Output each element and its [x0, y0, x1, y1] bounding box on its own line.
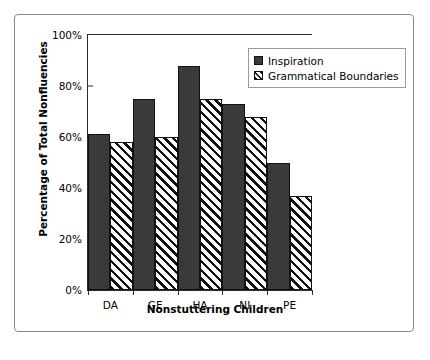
bar-ha-series-1: [178, 66, 200, 290]
x-axis-tick-mark: [267, 290, 268, 295]
bar-da-series-2: [110, 142, 132, 290]
legend-item: Grammatical Boundaries: [254, 68, 398, 83]
bar-ge-series-2: [155, 137, 177, 290]
bar-da-series-1: [88, 134, 110, 290]
x-axis-tick-mark: [133, 290, 134, 295]
y-axis-tick-label: 40%: [59, 182, 82, 194]
legend-swatch-icon: [254, 56, 263, 65]
chart-legend: InspirationGrammatical Boundaries: [248, 48, 406, 88]
bar-ha-series-2: [200, 99, 222, 290]
legend-item-label: Inspiration: [268, 55, 324, 67]
y-axis-tick-label: 20%: [59, 233, 82, 245]
legend-swatch-icon: [254, 71, 263, 80]
legend-item-label: Grammatical Boundaries: [268, 70, 398, 82]
y-axis-title: Percentage of Total Nonfluencies: [37, 19, 49, 259]
y-axis-tick-label: 100%: [52, 29, 82, 41]
x-axis-tick-mark: [312, 290, 313, 295]
x-axis-tick-mark: [222, 290, 223, 295]
bar-ni-series-2: [245, 117, 267, 290]
y-axis-tick-label: 0%: [65, 284, 82, 296]
y-axis-tick-mark: [88, 86, 93, 87]
y-axis-tick-label: 60%: [59, 131, 82, 143]
x-axis-title: Nonstuttering Children: [15, 303, 415, 315]
bar-pe-series-2: [290, 196, 312, 290]
x-axis-tick-mark: [88, 290, 89, 295]
x-axis-tick-mark: [178, 290, 179, 295]
legend-item: Inspiration: [254, 53, 398, 68]
y-axis-tick-label: 80%: [59, 80, 82, 92]
bar-ge-series-1: [133, 99, 155, 290]
bar-ni-series-1: [222, 104, 244, 290]
chart-figure-frame: Percentage of Total Nonfluencies 0%20%40…: [14, 14, 414, 332]
bar-pe-series-1: [267, 163, 289, 291]
